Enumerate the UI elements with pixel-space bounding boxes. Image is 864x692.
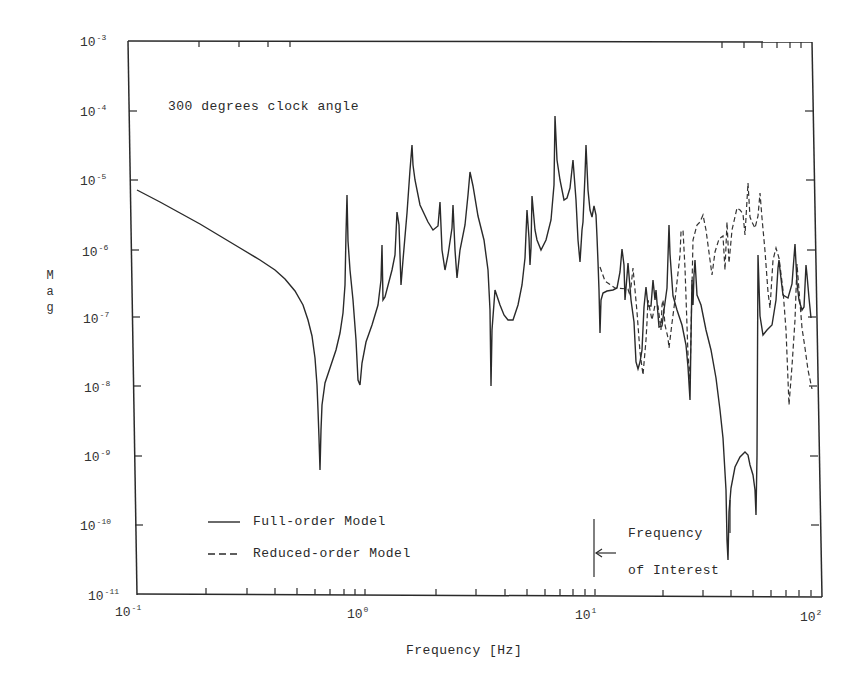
legend-full-label: Full-order Model xyxy=(253,514,386,529)
y-axis-label: Mag xyxy=(44,268,56,316)
y-tick-label: 10-8 xyxy=(84,379,110,396)
x-axis-label: Frequency [Hz] xyxy=(406,643,522,658)
foi-label-line1: Frequency xyxy=(628,526,703,541)
plot-frame xyxy=(128,41,822,597)
y-tick-label: 10-7 xyxy=(83,310,109,327)
y-tick-label: 10-11 xyxy=(88,587,119,604)
x-tick-label: 10-1 xyxy=(115,603,141,620)
y-tick-label: 10-5 xyxy=(80,172,106,189)
x-tick-label: 101 xyxy=(575,606,596,623)
y-tick-label: 10-6 xyxy=(82,243,108,260)
chart-svg xyxy=(0,0,864,692)
foi-label-line2: of Interest xyxy=(628,563,719,578)
y-ticks xyxy=(129,111,143,525)
x-tick-label: 100 xyxy=(347,605,368,622)
y-tick-label: 10-10 xyxy=(80,517,111,534)
legend-reduced-label: Reduced-order Model xyxy=(253,546,411,561)
y-tick-label: 10-3 xyxy=(80,33,106,50)
reduced-order-series xyxy=(600,183,812,405)
chart-annotation: 300 degrees clock angle xyxy=(168,99,359,114)
x-tick-label: 102 xyxy=(800,608,821,625)
y-tick-label: 10-9 xyxy=(84,448,110,465)
y-tick-label: 10-4 xyxy=(80,103,106,120)
full-order-series xyxy=(137,116,811,560)
